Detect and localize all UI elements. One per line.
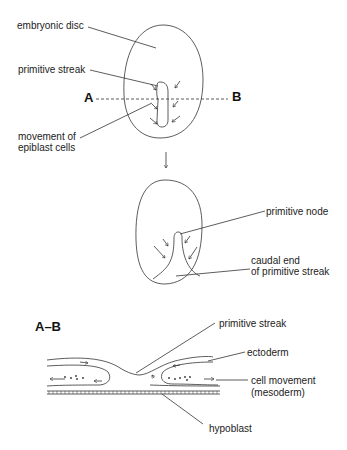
label-embryonic-disc: embryonic disc [17,20,84,31]
label-cell-movement-line1: cell movement [251,375,315,386]
label-primitive-streak-section: primitive streak [219,318,286,329]
label-hypoblast: hypoblast [209,423,252,434]
label-primitive-node: primitive node [266,206,328,217]
label-primitive-streak-top: primitive streak [18,64,85,75]
label-cell-movement-line2: (mesoderm) [251,387,305,398]
mesoderm-cells [64,375,191,381]
cross-section-title: A–B [35,321,61,332]
label-caudal-line2: of primitive streak [251,266,329,277]
embryonic-disc-top [80,25,228,138]
label-movement-line2: epiblast cells [18,142,75,153]
label-point-a: A [84,92,93,103]
label-movement-line1: movement of [18,131,76,142]
label-point-b: B [232,91,241,102]
label-ectoderm: ectoderm [247,347,289,358]
cross-section [47,323,248,424]
label-caudal-line1: caudal end [251,255,300,266]
embryonic-disc-later [136,180,265,284]
